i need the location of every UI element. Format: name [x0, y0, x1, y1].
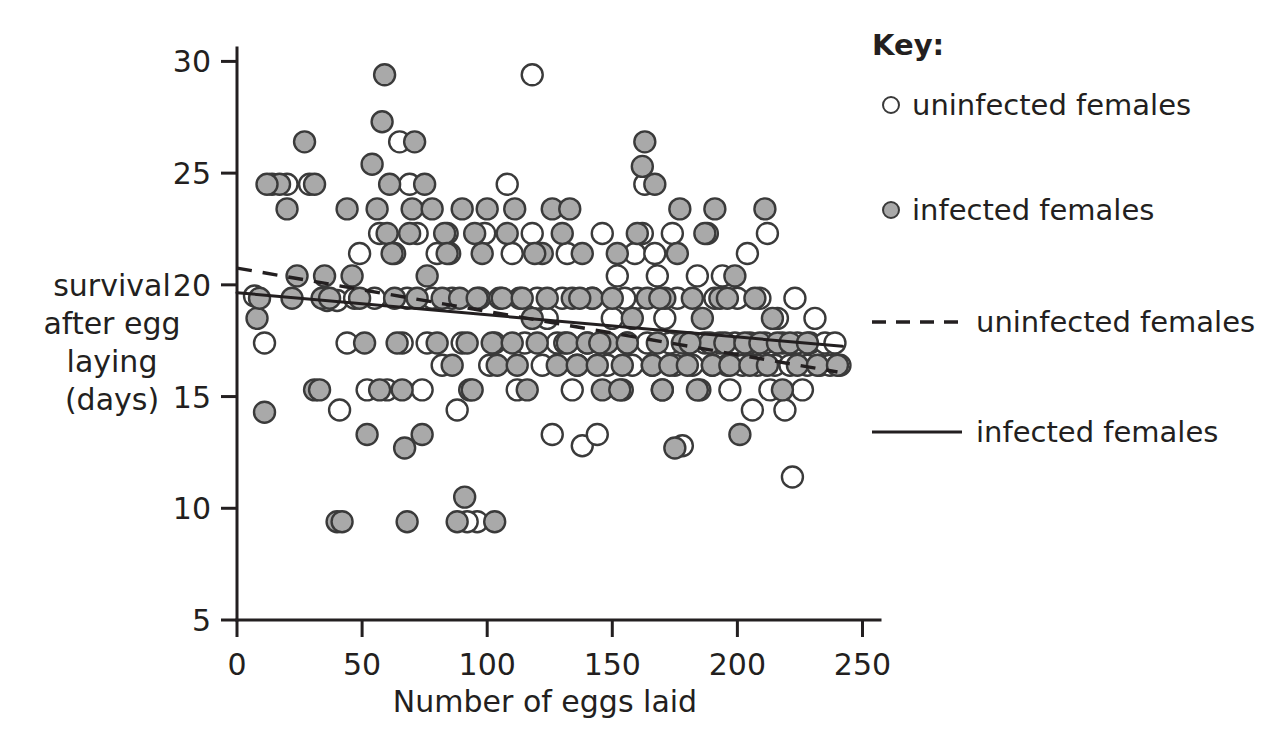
- data-point-uninfected: [654, 308, 675, 329]
- legend-label-uninfected-line: uninfected females: [976, 305, 1255, 339]
- data-point-infected: [704, 198, 725, 219]
- data-point-infected: [257, 174, 278, 195]
- chart-legend: Key: uninfected females infected females…: [872, 28, 1255, 449]
- data-point-uninfected: [522, 223, 543, 244]
- data-point-infected: [487, 355, 508, 376]
- data-point-infected: [332, 511, 353, 532]
- data-point-infected: [527, 332, 548, 353]
- data-point-infected: [497, 223, 518, 244]
- data-point-uninfected: [737, 243, 758, 264]
- data-point-infected: [762, 308, 783, 329]
- data-point-uninfected: [497, 174, 518, 195]
- data-point-infected: [452, 198, 473, 219]
- y-axis-title-line-2: after egg: [43, 306, 180, 341]
- y-axis-title: survival after egg laying (days): [43, 268, 180, 417]
- data-point-infected: [412, 424, 433, 445]
- data-point-uninfected: [587, 424, 608, 445]
- data-point-infected: [547, 355, 568, 376]
- data-point-infected: [587, 355, 608, 376]
- data-point-infected: [414, 174, 435, 195]
- data-point-uninfected: [742, 399, 763, 420]
- data-point-infected: [372, 111, 393, 132]
- data-point-infected: [559, 198, 580, 219]
- data-point-infected: [382, 243, 403, 264]
- data-point-infected: [572, 243, 593, 264]
- data-point-infected: [724, 265, 745, 286]
- data-point-uninfected: [607, 265, 628, 286]
- data-point-uninfected: [662, 223, 683, 244]
- data-point-infected: [387, 332, 408, 353]
- data-point-infected: [692, 308, 713, 329]
- data-point-uninfected: [522, 64, 543, 85]
- data-point-infected: [719, 355, 740, 376]
- data-point-infected: [392, 379, 413, 400]
- y-tick-label-5: 5: [192, 603, 211, 638]
- data-point-infected: [754, 198, 775, 219]
- data-point-uninfected: [824, 332, 845, 353]
- data-point-infected: [717, 288, 738, 309]
- y-axis-title-line-4: (days): [65, 382, 159, 417]
- data-point-infected: [427, 332, 448, 353]
- data-point-infected: [552, 223, 573, 244]
- data-point-infected: [677, 355, 698, 376]
- data-point-uninfected: [784, 288, 805, 309]
- data-point-infected: [507, 355, 528, 376]
- data-point-infected: [249, 288, 270, 309]
- data-point-infected: [447, 511, 468, 532]
- data-point-infected: [517, 379, 538, 400]
- data-point-infected: [682, 288, 703, 309]
- data-point-infected: [649, 288, 670, 309]
- y-axis-title-line-3: laying: [67, 344, 158, 379]
- data-point-infected: [357, 424, 378, 445]
- data-point-infected: [652, 379, 673, 400]
- data-point-uninfected: [562, 379, 583, 400]
- legend-title: Key:: [872, 28, 944, 62]
- data-point-uninfected: [542, 424, 563, 445]
- data-point-infected: [337, 198, 358, 219]
- data-point-uninfected: [687, 265, 708, 286]
- data-point-uninfected: [804, 308, 825, 329]
- data-point-infected: [609, 379, 630, 400]
- data-point-uninfected: [592, 223, 613, 244]
- data-point-uninfected: [502, 243, 523, 264]
- y-axis-title-line-1: survival: [53, 268, 171, 303]
- data-point-infected: [462, 379, 483, 400]
- data-points: [244, 64, 850, 532]
- data-point-uninfected: [792, 379, 813, 400]
- data-point-infected: [379, 174, 400, 195]
- y-tick-label-30: 30: [173, 44, 211, 79]
- y-tick-label-25: 25: [173, 156, 211, 191]
- legend-label-uninfected-marker: uninfected females: [912, 88, 1191, 122]
- scatter-plot: 51015202530050100150200250 Number of egg…: [0, 0, 1275, 752]
- legend-infected-marker-icon: [883, 202, 899, 218]
- data-point-infected: [367, 198, 388, 219]
- data-point-infected: [454, 487, 475, 508]
- data-point-infected: [669, 198, 690, 219]
- data-point-infected: [567, 355, 588, 376]
- data-point-uninfected: [719, 379, 740, 400]
- data-point-infected: [477, 198, 498, 219]
- data-point-infected: [569, 288, 590, 309]
- data-point-infected: [362, 154, 383, 175]
- data-point-infected: [472, 243, 493, 264]
- data-point-infected: [607, 243, 628, 264]
- data-point-infected: [374, 64, 395, 85]
- data-point-infected: [457, 332, 478, 353]
- data-point-infected: [504, 198, 525, 219]
- chart-root: 51015202530050100150200250 Number of egg…: [0, 0, 1275, 752]
- legend-label-infected-line: infected females: [976, 415, 1218, 449]
- data-point-infected: [417, 265, 438, 286]
- data-point-infected: [342, 265, 363, 286]
- data-point-infected: [667, 243, 688, 264]
- data-point-infected: [422, 198, 443, 219]
- y-tick-label-10: 10: [173, 491, 211, 526]
- data-point-uninfected: [254, 332, 275, 353]
- data-point-infected: [369, 379, 390, 400]
- data-point-infected: [354, 332, 375, 353]
- x-axis-title-text: Number of eggs laid: [393, 684, 697, 719]
- data-point-infected: [309, 379, 330, 400]
- data-point-infected: [772, 379, 793, 400]
- data-point-uninfected: [412, 379, 433, 400]
- data-point-infected: [687, 379, 708, 400]
- data-point-uninfected: [774, 399, 795, 420]
